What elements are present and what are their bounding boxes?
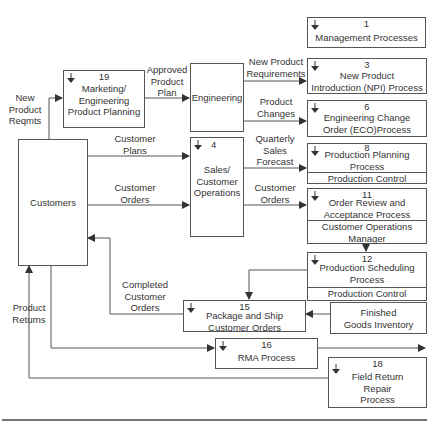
process-owner-line: Manager xyxy=(308,233,426,245)
flow-label-product-changes: Product Changes xyxy=(248,96,304,119)
flow-label-customer-plans: Customer Plans xyxy=(110,133,160,156)
process-number: 3 xyxy=(308,60,426,70)
process-number: 18 xyxy=(329,359,426,369)
process-title-line: Sales/ xyxy=(191,164,243,176)
process-number: 19 xyxy=(64,72,144,82)
flow-label-completed-customer-orders: Completed Customer Orders xyxy=(117,279,173,314)
process-title-line: Customer Orders xyxy=(184,322,305,334)
process-number: 12 xyxy=(308,254,426,264)
process-title-line: Field Return xyxy=(329,371,426,383)
process-title-line: Repair xyxy=(329,383,426,395)
process-title-line: Marketing/ xyxy=(64,83,144,95)
process-title: Management Processes xyxy=(308,32,425,44)
flow-label-approved-product-plan: Approved Product Plan xyxy=(145,64,189,99)
process-title-line: Order (ECO)Process xyxy=(308,124,426,136)
box-npi-process: 3 New Product Introduction (NPI) Process xyxy=(307,58,427,94)
process-number: 6 xyxy=(308,102,426,112)
process-title-line: Process xyxy=(308,274,426,286)
process-number: 1 xyxy=(308,19,425,29)
box-production-planning: 8 Production Planning Process Production… xyxy=(307,143,427,184)
box-production-scheduling: 12 Production Scheduling Process Product… xyxy=(307,252,427,301)
box-rma-process: 16 RMA Process xyxy=(215,338,318,369)
process-title-line: Engineering xyxy=(64,95,144,107)
process-number: 16 xyxy=(216,340,317,350)
box-marketing-engineering-planning: 19 Marketing/ Engineering Product Planni… xyxy=(63,70,145,128)
box-management-processes: 1 Management Processes xyxy=(307,17,426,48)
process-title-line: New Product xyxy=(308,70,426,82)
box-engineering: Engineering xyxy=(190,63,244,132)
process-owner-line: Customer Operations xyxy=(308,221,426,233)
process-number: 15 xyxy=(184,302,305,312)
flow-label-quarterly-sales-forecast: Quarterly Sales Forecast xyxy=(250,133,300,168)
flow-label-customer-orders-out: Customer Orders xyxy=(250,182,300,205)
entity-title: Customers xyxy=(30,197,76,209)
process-title-line: Acceptance Process xyxy=(308,209,426,221)
box-field-return-repair: 18 Field Return Repair Process xyxy=(328,357,427,408)
box-order-review: 11 Order Review and Acceptance Process C… xyxy=(307,188,427,244)
box-finished-goods-inventory: Finished Goods Inventory xyxy=(330,302,427,334)
process-title-line: Engineering Change xyxy=(308,112,426,124)
entity-title: Engineering xyxy=(192,92,243,104)
process-title-line: Process xyxy=(308,161,426,173)
process-number: 8 xyxy=(308,143,426,153)
process-title-line: Process xyxy=(329,394,426,406)
flow-label-product-returns: Product Returns xyxy=(8,302,50,325)
box-package-and-ship: 15 Package and Ship Customer Orders xyxy=(183,300,306,332)
box-customers: Customers xyxy=(18,139,88,266)
process-title-line: Customer xyxy=(191,176,243,188)
process-title-line: Introduction (NPI) Process xyxy=(308,82,426,94)
down-arrow-icon xyxy=(194,140,202,150)
process-title-line: Operations xyxy=(191,187,243,199)
entity-title-line: Finished xyxy=(331,307,426,319)
flow-label-customer-orders-in: Customer Orders xyxy=(110,182,160,205)
process-number: 4 xyxy=(211,140,216,150)
box-eco-process: 6 Engineering Change Order (ECO)Process xyxy=(307,100,427,137)
flow-label-new-product-reqmts: New Product Reqmts xyxy=(8,92,42,127)
entity-title-line: Goods Inventory xyxy=(331,319,426,331)
process-number: 11 xyxy=(308,190,426,200)
process-title-line: Product Planning xyxy=(64,106,144,118)
process-title: RMA Process xyxy=(216,352,317,364)
box-sales-customer-operations: 4 Sales/ Customer Operations xyxy=(190,137,244,237)
flow-label-new-product-requirements: New Product Requirements xyxy=(246,56,306,79)
